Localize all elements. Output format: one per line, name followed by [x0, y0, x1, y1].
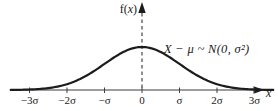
x-tick-label-neg2: −2σ: [58, 94, 76, 106]
distribution-annotation: X − μ ~ N(0, σ²): [163, 42, 249, 56]
y-axis-arrow-icon: [138, 2, 145, 13]
x-axis-label: x: [265, 86, 272, 100]
x-tick-label-neg1: −σ: [98, 94, 110, 106]
ylabel-suffix: ): [133, 2, 137, 16]
x-tick-label-pos3: 3σ: [249, 94, 261, 106]
ylabel-prefix: f(: [120, 2, 128, 16]
x-tick-label-pos2: 2σ: [211, 94, 223, 106]
x-tick-label-zero: 0: [139, 94, 145, 106]
normal-distribution-figure: f(x) x X − μ ~ N(0, σ²) −3σ −2σ −σ 0 σ 2…: [0, 0, 278, 111]
plot-svg: f(x) x X − μ ~ N(0, σ²) −3σ −2σ −σ 0 σ 2…: [0, 0, 278, 111]
y-axis-label: f(x): [120, 2, 137, 16]
x-tick-label-pos1: σ: [177, 94, 183, 106]
x-tick-label-neg3: −3σ: [21, 94, 39, 106]
